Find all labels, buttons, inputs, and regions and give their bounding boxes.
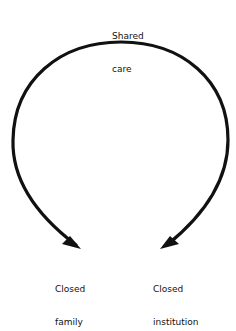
node-closed-family: Closed family <box>55 262 85 331</box>
arc-arrow <box>13 42 228 245</box>
node-closed-family-line2: family <box>55 317 85 328</box>
node-closed-family-line1: Closed <box>55 284 85 295</box>
node-closed-institution-line1: Closed <box>153 284 198 295</box>
node-closed-institution: Closed institution <box>153 262 198 331</box>
node-closed-institution-line2: institution <box>153 317 198 328</box>
